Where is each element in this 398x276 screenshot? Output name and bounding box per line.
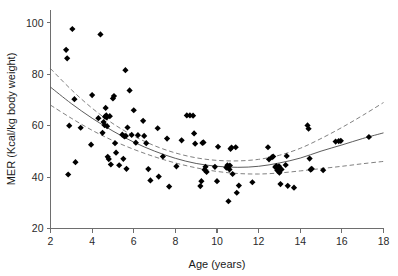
scatter-plot-figure: 24681012141618 20406080100 Age (years) M…: [0, 0, 398, 276]
data-point-marker: [147, 177, 153, 183]
data-point-marker: [265, 144, 271, 150]
data-point-marker: [225, 198, 231, 204]
data-point-marker: [197, 183, 203, 189]
data-point-marker: [191, 130, 197, 136]
data-point-marker: [160, 153, 166, 159]
data-point-marker: [141, 133, 147, 139]
x-tick-label: 8: [172, 235, 178, 247]
data-point-marker: [129, 132, 135, 138]
data-point-group: [63, 26, 372, 204]
data-point-marker: [131, 107, 137, 113]
data-point-marker: [215, 144, 221, 150]
y-tick-label: 100: [26, 17, 44, 29]
y-tick-label: 80: [32, 68, 44, 80]
data-point-marker: [179, 137, 185, 143]
data-point-marker: [126, 87, 132, 93]
data-point-marker: [89, 92, 95, 98]
x-tick-label: 4: [89, 235, 95, 247]
x-tick-label: 2: [48, 235, 54, 247]
data-point-marker: [307, 155, 313, 161]
data-point-marker: [320, 167, 326, 173]
data-point-marker: [198, 178, 204, 184]
regression-fit-curve: [51, 87, 384, 167]
y-tick-label: 60: [32, 119, 44, 131]
data-point-marker: [120, 156, 126, 162]
data-point-marker: [283, 162, 289, 168]
y-tick-label: 20: [32, 222, 44, 234]
data-point-marker: [140, 118, 146, 124]
data-point-marker: [72, 159, 78, 165]
data-point-marker: [122, 67, 128, 73]
x-tick-label: 6: [131, 235, 137, 247]
x-axis-title: Age (years): [189, 258, 246, 270]
data-point-marker: [233, 144, 239, 150]
x-tick-label: 18: [378, 235, 390, 247]
y-tick-label: 40: [32, 171, 44, 183]
data-point-marker: [249, 179, 255, 185]
data-point-marker: [156, 173, 162, 179]
data-point-marker: [291, 185, 297, 191]
data-point-marker: [116, 162, 122, 168]
data-point-marker: [66, 123, 72, 129]
x-tick-label: 16: [336, 235, 348, 247]
confidence-band-curve: [51, 105, 384, 174]
data-point-marker: [123, 166, 129, 172]
data-point-marker: [166, 183, 172, 189]
data-point-marker: [71, 96, 77, 102]
data-point-marker: [192, 141, 198, 147]
plot-frame: [51, 10, 384, 229]
data-point-marker: [63, 47, 69, 53]
data-point-marker: [164, 135, 170, 141]
data-point-marker: [88, 142, 94, 148]
data-point-marker: [145, 166, 151, 172]
data-point-marker: [366, 134, 372, 140]
data-point-marker: [69, 26, 75, 32]
data-point-marker: [214, 178, 220, 184]
x-tick-label: 10: [211, 235, 223, 247]
data-point-marker: [108, 161, 114, 167]
data-point-marker: [230, 171, 236, 177]
data-point-marker: [234, 190, 240, 196]
y-axis-ticks: 20406080100: [26, 17, 51, 235]
data-point-marker: [112, 140, 118, 146]
data-point-marker: [103, 105, 109, 111]
confidence-band-group: [51, 69, 384, 174]
data-point-marker: [212, 164, 218, 170]
data-point-marker: [277, 181, 283, 187]
plot-canvas: 24681012141618 20406080100 Age (years) M…: [0, 0, 398, 276]
y-axis-title: MER (Kcal/kg body weight): [5, 53, 17, 186]
data-point-marker: [64, 55, 70, 61]
data-point-marker: [97, 31, 103, 37]
data-point-marker: [236, 182, 242, 188]
data-point-marker: [99, 130, 105, 136]
x-tick-label: 14: [294, 235, 306, 247]
x-axis-ticks: 24681012141618: [48, 229, 390, 247]
data-point-marker: [285, 183, 291, 189]
data-point-marker: [113, 150, 119, 156]
data-point-marker: [155, 125, 161, 131]
data-point-marker: [124, 124, 130, 130]
data-point-marker: [133, 140, 139, 146]
data-point-marker: [65, 171, 71, 177]
x-tick-label: 12: [253, 235, 265, 247]
